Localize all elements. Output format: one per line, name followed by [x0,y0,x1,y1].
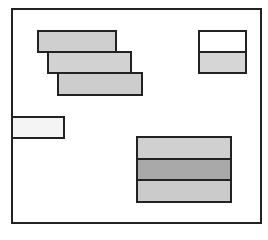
stack-box-middle [136,158,232,181]
stack-box-top [136,136,232,160]
left-edge-box [11,116,65,139]
stack-box-bottom [136,179,232,203]
staggered-box-2 [47,51,132,74]
top-right-box-lower [198,51,247,74]
top-right-box-upper [198,30,247,53]
staggered-box-3 [57,72,143,96]
staggered-box-1 [37,30,117,53]
